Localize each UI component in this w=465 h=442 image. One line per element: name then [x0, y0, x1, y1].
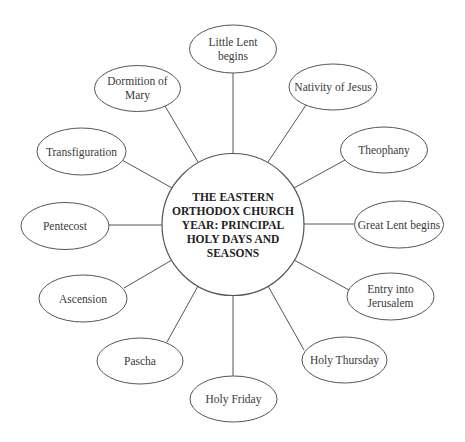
node-dormition: Dormition of Mary [95, 66, 181, 112]
node-label-line-1: Little Lent [209, 36, 259, 48]
node-label-line-1: Entry into [367, 283, 414, 296]
hub-node: THE EASTERN ORTHODOX CHURCH YEAR: PRINCI… [162, 154, 304, 296]
connector-ascension [124, 260, 172, 288]
hub-title-line-5: SEASONS [207, 247, 259, 259]
hub-title-line-1: THE EASTERN [192, 191, 274, 203]
node-ascension: Ascension [39, 275, 127, 322]
hub-title-line-4: HOLY DAYS AND [187, 233, 280, 245]
node-label-line-2: Jerusalem [368, 297, 414, 309]
node-label: Holy Thursday [310, 354, 379, 367]
node-ellipse [190, 25, 277, 73]
connector-dormition [165, 106, 198, 162]
node-holy-thursday: Holy Thursday [302, 337, 387, 383]
connector-theophany [294, 160, 345, 188]
node-label: Nativity of Jesus [294, 81, 372, 94]
connector-nativity [268, 105, 306, 162]
node-label-line-2: Mary [125, 89, 150, 102]
connector-transfiguration [122, 160, 172, 188]
node-transfiguration: Transfiguration [37, 128, 126, 175]
node-label: Transfiguration [46, 146, 117, 159]
node-label-line-1: Dormition of [107, 75, 168, 87]
hub-title-line-3: YEAR: PRINCIPAL [182, 219, 285, 231]
connector-pascha [167, 286, 198, 342]
connector-holy-thursday [268, 286, 304, 350]
hub-title-line-2: ORTHODOX CHURCH [172, 205, 294, 217]
node-great-lent: Great Lent begins [355, 201, 444, 248]
church-year-diagram: THE EASTERN ORTHODOX CHURCH YEAR: PRINCI… [0, 0, 465, 442]
node-label: Great Lent begins [358, 219, 441, 232]
node-pascha: Pascha [97, 338, 183, 384]
connector-entry-jerusalem [294, 260, 349, 290]
node-little-lent: Little Lent begins [190, 25, 277, 73]
node-entry-jerusalem: Entry into Jerusalem [347, 273, 434, 320]
node-label-line-2: begins [218, 50, 249, 63]
node-label: Ascension [59, 293, 107, 305]
node-label: Theophany [358, 144, 410, 157]
node-holy-friday: Holy Friday [190, 376, 277, 422]
node-label: Pentecost [43, 220, 88, 232]
node-label: Pascha [124, 355, 156, 367]
node-label: Holy Friday [206, 393, 262, 406]
node-nativity: Nativity of Jesus [289, 64, 377, 110]
node-theophany: Theophany [341, 127, 428, 173]
node-pentecost: Pentecost [21, 203, 109, 250]
